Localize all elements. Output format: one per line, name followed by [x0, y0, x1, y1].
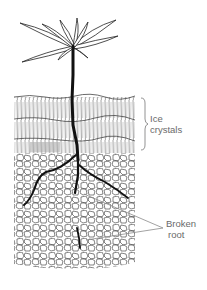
- broken-root-label: Broken root: [166, 218, 196, 240]
- ice-crystal-layer: [14, 94, 135, 153]
- ice-crystals-brace: [141, 98, 148, 150]
- soil-gravel-layer: [14, 153, 135, 269]
- ice-crystals-label-line1: Ice: [150, 113, 182, 124]
- ice-crystals-label: Ice crystals: [150, 113, 182, 135]
- ice-crystals-label-line2: crystals: [150, 124, 182, 135]
- plant-rosette: [20, 18, 118, 62]
- broken-root-label-line2: root: [166, 229, 196, 240]
- frost-heave-illustration: Ice crystals Broken root: [0, 0, 207, 290]
- illustration-canvas: [0, 0, 207, 290]
- broken-root-label-line1: Broken: [166, 218, 196, 229]
